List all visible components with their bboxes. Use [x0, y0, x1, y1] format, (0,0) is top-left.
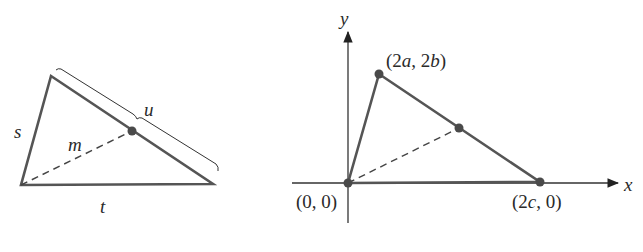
label-right-point: (2c, 0) [512, 191, 562, 213]
coordinate-figure: y x (0, 0) (2a, 2b) (2c, 0) [292, 8, 633, 223]
label-top-a: a [402, 50, 412, 71]
label-m: m [68, 134, 82, 155]
label-top-point: (2a, 2b) [386, 50, 446, 72]
left-triangle [21, 76, 213, 185]
point-top [375, 70, 384, 79]
label-t: t [100, 196, 106, 217]
median-line [348, 128, 459, 183]
point-midpoint [455, 124, 464, 133]
label-origin: (0, 0) [296, 191, 337, 213]
point-right [536, 178, 545, 187]
label-top-b: b [430, 50, 440, 71]
left-triangle-figure: s m u t [14, 69, 218, 217]
x-axis-label: x [623, 174, 633, 195]
label-s: s [14, 121, 21, 142]
point-origin [344, 179, 353, 188]
y-axis-label: y [338, 8, 349, 29]
figure-canvas: s m u t y x (0, 0) (2a, 2b) (2c, 0) [0, 0, 643, 252]
coordinate-triangle [348, 74, 540, 183]
label-top-p1: (2 [386, 50, 402, 72]
label-right-p1: (2 [512, 191, 528, 213]
label-top-sep: , 2 [411, 50, 430, 71]
label-top-p2: ) [440, 50, 446, 72]
label-right-p2: , 0) [536, 191, 561, 213]
midpoint-dot [128, 127, 137, 136]
label-u: u [144, 99, 154, 120]
